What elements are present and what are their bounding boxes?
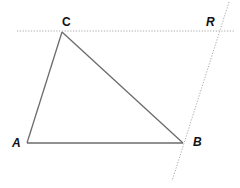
triangle-abc bbox=[27, 32, 183, 143]
label-c: C bbox=[62, 15, 71, 29]
label-a: A bbox=[11, 136, 21, 150]
geometry-diagram: C R A B bbox=[0, 0, 240, 188]
side-cb bbox=[62, 32, 183, 143]
side-ac bbox=[27, 32, 62, 143]
label-r: R bbox=[206, 15, 215, 29]
dotted-line-through-b-r bbox=[172, 2, 229, 181]
label-b: B bbox=[193, 135, 202, 149]
